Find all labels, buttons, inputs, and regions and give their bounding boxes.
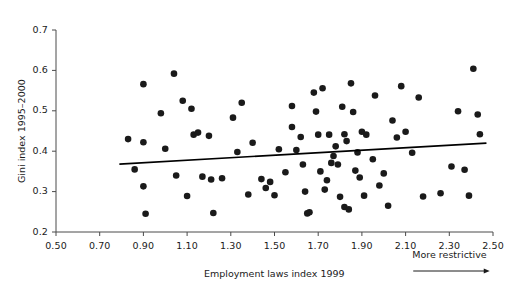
data-point xyxy=(206,133,213,140)
data-point xyxy=(306,209,313,216)
data-points-group xyxy=(125,65,483,217)
data-point xyxy=(158,110,165,117)
data-point xyxy=(199,173,206,180)
x-axis-title: Employment laws index 1999 xyxy=(204,268,345,279)
annotation-more-restrictive: More restrictive xyxy=(412,249,486,260)
data-point xyxy=(140,81,147,88)
data-point xyxy=(477,131,484,138)
data-point xyxy=(245,191,252,198)
data-point xyxy=(234,149,241,156)
data-point xyxy=(321,186,328,193)
data-point xyxy=(339,103,346,110)
annotation-arrow-head xyxy=(484,268,490,273)
data-point xyxy=(249,139,256,146)
data-point xyxy=(311,89,318,96)
data-point xyxy=(337,194,344,201)
data-point xyxy=(315,131,322,138)
data-point xyxy=(188,105,195,112)
y-tick-label: 0.3 xyxy=(0,185,48,196)
data-point xyxy=(267,179,274,186)
data-point xyxy=(282,169,289,176)
data-point xyxy=(330,153,337,160)
data-point xyxy=(173,172,180,179)
data-point xyxy=(352,167,359,174)
data-point xyxy=(230,114,237,121)
data-point xyxy=(219,175,226,182)
data-point xyxy=(370,156,377,163)
data-point xyxy=(195,129,202,136)
data-point xyxy=(466,192,473,199)
data-point xyxy=(324,177,331,184)
data-point xyxy=(420,193,427,200)
data-point xyxy=(474,111,481,118)
data-point xyxy=(389,117,396,124)
data-point xyxy=(276,146,283,153)
data-point xyxy=(140,183,147,190)
data-point xyxy=(289,124,296,131)
y-tick-label: 0.7 xyxy=(0,24,48,35)
data-point xyxy=(131,166,138,173)
data-point xyxy=(398,83,405,90)
data-point xyxy=(415,94,422,101)
data-point xyxy=(363,131,370,138)
data-point xyxy=(208,176,215,183)
scatter-plot-figure: 0.20.30.40.50.60.70.500.700.901.101.301.… xyxy=(0,0,524,306)
y-axis-title: Gini index 1995–2000 xyxy=(16,79,27,183)
data-point xyxy=(302,188,309,195)
data-point xyxy=(271,192,278,199)
data-point xyxy=(179,97,186,104)
data-point xyxy=(437,190,444,197)
data-point xyxy=(394,134,401,141)
data-point xyxy=(455,108,462,115)
data-point xyxy=(461,166,468,173)
data-point xyxy=(448,163,455,170)
data-point xyxy=(361,192,368,199)
data-point xyxy=(470,65,477,72)
data-point xyxy=(313,108,320,115)
data-point xyxy=(341,131,348,138)
data-point xyxy=(343,138,350,145)
data-point xyxy=(332,143,339,150)
data-point xyxy=(162,145,169,152)
data-point xyxy=(262,185,269,192)
data-point xyxy=(372,92,379,99)
data-point xyxy=(125,136,132,143)
trend-line xyxy=(119,143,486,164)
y-tick-label: 0.2 xyxy=(0,226,48,237)
data-point xyxy=(348,80,355,87)
y-tick-label: 0.6 xyxy=(0,64,48,75)
data-point xyxy=(289,103,296,110)
data-point xyxy=(171,70,178,77)
data-point xyxy=(402,129,409,136)
data-point xyxy=(140,139,147,146)
data-point xyxy=(300,161,307,168)
plot-canvas xyxy=(0,0,524,306)
data-point xyxy=(328,160,335,167)
data-point xyxy=(142,211,149,218)
data-point xyxy=(184,193,191,200)
data-point xyxy=(297,134,304,141)
data-point xyxy=(238,99,245,106)
data-point xyxy=(210,210,217,217)
data-point xyxy=(326,131,333,138)
data-point xyxy=(258,176,265,183)
data-point xyxy=(319,85,326,92)
data-point xyxy=(385,202,392,209)
data-point xyxy=(376,182,383,189)
data-point xyxy=(345,206,352,213)
data-point xyxy=(317,168,324,175)
data-point xyxy=(380,170,387,177)
data-point xyxy=(409,150,416,157)
data-point xyxy=(335,161,342,168)
data-point xyxy=(293,147,300,154)
data-point xyxy=(350,109,357,116)
data-point xyxy=(356,174,363,181)
